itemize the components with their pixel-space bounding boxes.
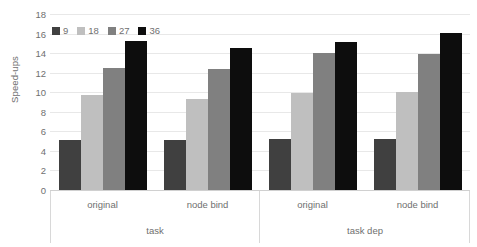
legend-label: 27	[119, 26, 130, 36]
bar-series-27[interactable]	[208, 69, 230, 190]
bar-group	[155, 14, 260, 190]
bar-series-36[interactable]	[440, 33, 462, 190]
x-axis-inner-label: node bind	[365, 191, 470, 217]
bar-series-27[interactable]	[103, 68, 125, 190]
bar-series-18[interactable]	[396, 92, 418, 190]
legend-swatch-icon	[138, 27, 146, 35]
x-axis-inner-labels: originalnode bindoriginalnode bind	[50, 191, 470, 217]
bar-series-9[interactable]	[59, 140, 81, 190]
bar-series-9[interactable]	[164, 140, 186, 190]
x-axis-outer-label: task dep	[260, 217, 470, 243]
y-axis-tick-label: 10	[20, 87, 46, 98]
y-axis-tick-label: 8	[20, 106, 46, 117]
legend-label: 36	[149, 26, 160, 36]
y-axis-tick-label: 16	[20, 28, 46, 39]
bar-series-36[interactable]	[125, 41, 147, 190]
y-axis-tick-labels: 181614121086420	[20, 8, 46, 190]
bar-group	[365, 14, 470, 190]
bar-chart-figure: Speed-ups 181614121086420 originalnode b…	[0, 0, 477, 247]
y-axis-tick-label: 14	[20, 48, 46, 59]
x-axis-outer-labels: tasktask dep	[50, 217, 470, 243]
bar-group	[50, 14, 155, 190]
bar-series-9[interactable]	[269, 139, 291, 190]
bar-series-18[interactable]	[81, 95, 103, 190]
bar-series-18[interactable]	[186, 99, 208, 190]
y-axis-tick-label: 18	[20, 9, 46, 20]
bars-layer	[50, 14, 470, 190]
bar-group	[260, 14, 365, 190]
legend-label: 18	[88, 26, 99, 36]
legend-item[interactable]: 18	[77, 26, 99, 36]
bar-series-36[interactable]	[335, 42, 357, 190]
y-axis-title: Speed-ups	[9, 10, 20, 150]
y-axis-tick-label: 2	[20, 165, 46, 176]
legend-item[interactable]: 36	[138, 26, 160, 36]
bar-series-36[interactable]	[230, 48, 252, 190]
bar-series-27[interactable]	[313, 53, 335, 190]
y-axis-tick-label: 12	[20, 67, 46, 78]
x-axis-outer-label: task	[50, 217, 260, 243]
plot-area	[50, 14, 470, 190]
bar-series-9[interactable]	[374, 139, 396, 190]
legend-label: 9	[63, 26, 68, 36]
x-axis-inner-label: node bind	[155, 191, 260, 217]
bar-series-18[interactable]	[291, 93, 313, 190]
y-axis-tick-label: 0	[20, 185, 46, 196]
y-axis-tick-label: 6	[20, 126, 46, 137]
legend-swatch-icon	[52, 27, 60, 35]
legend-swatch-icon	[77, 27, 85, 35]
y-axis-tick-label: 4	[20, 145, 46, 156]
legend: 9182736	[52, 26, 160, 36]
legend-item[interactable]: 27	[108, 26, 130, 36]
legend-item[interactable]: 9	[52, 26, 68, 36]
legend-swatch-icon	[108, 27, 116, 35]
x-axis-inner-label: original	[260, 191, 365, 217]
bar-series-27[interactable]	[418, 54, 440, 190]
x-axis-inner-label: original	[50, 191, 155, 217]
